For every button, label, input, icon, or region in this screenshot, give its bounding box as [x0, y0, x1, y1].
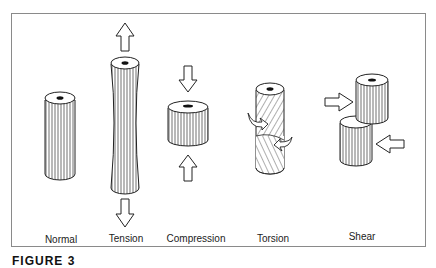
label-shear: Shear [349, 231, 376, 242]
torsion-cylinder-icon [256, 83, 284, 174]
figure-caption: FIGURE 3 [12, 254, 75, 268]
compression-arrow-up-icon [179, 155, 197, 181]
shear-arrow-left-icon [376, 135, 404, 153]
label-torsion: Torsion [257, 233, 289, 244]
label-tension: Tension [109, 233, 143, 244]
tension-arrow-down-icon [116, 199, 134, 227]
normal-cylinder-icon [45, 92, 75, 180]
shear-upper-cylinder-icon [356, 74, 388, 124]
compression-arrow-down-icon [179, 66, 197, 92]
label-compression: Compression [167, 233, 226, 244]
shear-arrow-right-icon [325, 93, 353, 111]
tension-cylinder-icon [111, 57, 139, 194]
compression-cylinder-icon [168, 101, 208, 146]
label-normal: Normal [45, 234, 77, 245]
tension-arrow-up-icon [116, 23, 134, 51]
